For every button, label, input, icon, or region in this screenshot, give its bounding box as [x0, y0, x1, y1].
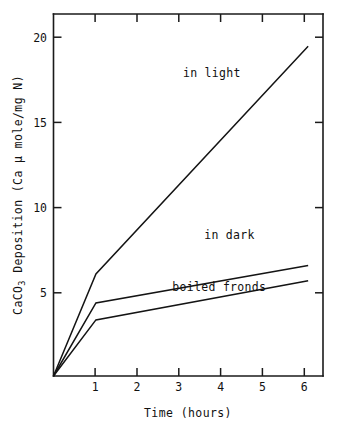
y-tick-label-10: 10 [33, 201, 47, 215]
x-tick-marks [95, 368, 304, 376]
y-tick-label-15: 15 [33, 116, 47, 130]
annotation-in-dark: in dark [204, 228, 255, 242]
y-tick-marks [54, 37, 62, 293]
series-annotations: in light in dark boiled fronds [172, 66, 266, 294]
y-axis-title: CaCO3 Deposition (Ca μ mole/mg N) [11, 75, 27, 315]
y-tick-label-20: 20 [33, 31, 47, 45]
y-tick-label-5: 5 [40, 286, 47, 300]
x-tick-label-6: 6 [301, 380, 308, 394]
chart-figure: 5 10 15 20 1 2 3 4 5 6 in light in dark … [0, 0, 339, 429]
annotation-in-light: in light [183, 66, 241, 80]
x-tick-label-1: 1 [92, 380, 99, 394]
x-tick-labels: 1 2 3 4 5 6 [92, 380, 308, 394]
svg-text:CaCO3 Deposition (Ca μ mole/mg: CaCO3 Deposition (Ca μ mole/mg N) [11, 75, 27, 315]
line-chart: 5 10 15 20 1 2 3 4 5 6 in light in dark … [0, 0, 339, 429]
y-axis-title-suffix: Deposition (Ca μ mole/mg N) [11, 75, 25, 280]
x-tick-label-4: 4 [217, 380, 224, 394]
annotation-boiled-fronds: boiled fronds [172, 280, 266, 294]
data-series-group [54, 46, 309, 376]
x-tick-label-3: 3 [175, 380, 182, 394]
y-tick-marks-right [315, 37, 323, 293]
y-tick-labels: 5 10 15 20 [33, 31, 47, 300]
x-tick-label-2: 2 [134, 380, 141, 394]
x-tick-marks-top [95, 14, 304, 22]
series-line-boiled-fronds [54, 281, 309, 376]
x-tick-label-5: 5 [259, 380, 266, 394]
y-axis-title-prefix: CaCO [11, 286, 25, 315]
x-axis-title: Time (hours) [144, 406, 232, 420]
